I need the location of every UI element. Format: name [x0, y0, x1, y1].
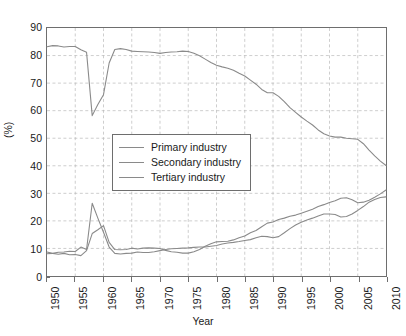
x-tick-label: 1990: [277, 287, 287, 310]
x-tick-label: 1985: [249, 287, 259, 310]
x-tick-mark: [160, 277, 161, 282]
x-tick-mark: [74, 277, 75, 282]
x-tick-label: 1970: [164, 287, 174, 310]
x-tick-label: 2010: [391, 287, 401, 310]
y-tick-label: 70: [16, 78, 42, 88]
series-line: [47, 197, 386, 254]
x-tick-mark: [46, 277, 47, 282]
y-axis-title: (%): [2, 122, 14, 138]
y-tick-label: 0: [16, 272, 42, 282]
x-axis-tick-labels: 1950195519601965197019751980198519901995…: [46, 282, 387, 316]
legend-item-label: Primary industry: [151, 142, 227, 153]
x-tick-mark: [188, 277, 189, 282]
x-tick-label: 1950: [50, 287, 60, 310]
x-tick-mark: [103, 277, 104, 282]
y-tick-label: 80: [16, 50, 42, 60]
x-tick-mark: [245, 277, 246, 282]
x-tick-mark: [359, 277, 360, 282]
x-tick-label: 1975: [192, 287, 202, 310]
industry-share-line-chart: 0102030405060708090 (%) 1950195519601965…: [0, 0, 406, 336]
x-axis-title: Year: [0, 315, 406, 327]
y-tick-label: 40: [16, 161, 42, 171]
chart-legend: Primary industry Secondary industry Tert…: [112, 134, 251, 191]
y-tick-label: 90: [16, 22, 42, 32]
x-tick-label: 1965: [135, 287, 145, 310]
x-tick-mark: [131, 277, 132, 282]
x-tick-mark: [330, 277, 331, 282]
x-tick-mark: [273, 277, 274, 282]
y-tick-label: 30: [16, 189, 42, 199]
y-tick-label: 50: [16, 133, 42, 143]
legend-item-tertiary-industry: Tertiary industry: [119, 170, 241, 185]
x-tick-label: 1980: [221, 287, 231, 310]
x-tick-mark: [387, 277, 388, 282]
legend-item-primary-industry: Primary industry: [119, 140, 241, 155]
legend-line-icon: [119, 177, 144, 178]
x-tick-mark: [217, 277, 218, 282]
x-tick-mark: [302, 277, 303, 282]
legend-line-icon: [119, 162, 144, 163]
y-tick-label: 20: [16, 216, 42, 226]
legend-item-label: Tertiary industry: [151, 172, 225, 183]
legend-item-label: Secondary industry: [151, 157, 241, 168]
x-tick-label: 1995: [306, 287, 316, 310]
legend-item-secondary-industry: Secondary industry: [119, 155, 241, 170]
y-tick-label: 10: [16, 244, 42, 254]
y-tick-label: 60: [16, 105, 42, 115]
x-tick-label: 1955: [78, 287, 88, 310]
x-tick-label: 2000: [334, 287, 344, 310]
x-tick-label: 1960: [107, 287, 117, 310]
y-axis-tick-labels: 0102030405060708090: [12, 27, 42, 277]
x-tick-label: 2005: [363, 287, 373, 310]
legend-line-icon: [119, 147, 144, 148]
